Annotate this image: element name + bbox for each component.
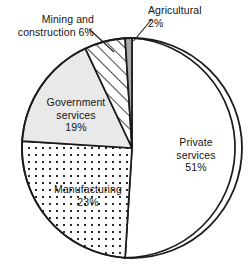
slice-label-agricultural-line1: Agricultural — [148, 4, 234, 17]
slice-label-government-services: Government services 19% — [24, 96, 128, 134]
slice-label-mining-and-construction-line1: Mining and — [2, 13, 94, 26]
slice-label-manufacturing: Manufacturing 23% — [36, 183, 140, 208]
slice-label-private-services-line1: Private — [160, 136, 232, 149]
pie-chart: Private services 51% Government services… — [0, 0, 249, 271]
slice-label-private-services: Private services 51% — [160, 136, 232, 174]
slice-label-private-services-value: 51% — [160, 161, 232, 174]
slice-label-agricultural-value: 2% — [148, 17, 234, 30]
slice-label-mining-and-construction-line2: construction 6% — [2, 26, 94, 39]
slice-label-mining-and-construction: Mining and construction 6% — [2, 13, 94, 38]
slice-label-agricultural: Agricultural 2% — [148, 4, 234, 29]
slice-label-manufacturing-value: 23% — [36, 196, 140, 209]
slice-label-private-services-line2: services — [160, 149, 232, 162]
slice-label-government-services-line1: Government — [24, 96, 128, 109]
slice-label-government-services-value: 19% — [24, 121, 128, 134]
slice-label-government-services-line2: services — [24, 109, 128, 122]
slice-label-manufacturing-line1: Manufacturing — [36, 183, 140, 196]
